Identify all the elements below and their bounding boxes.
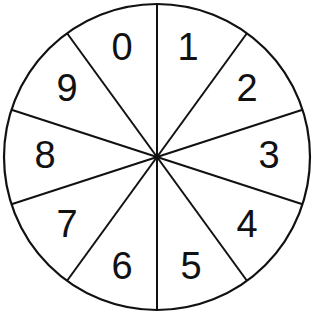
sector-label-1: 1 [177,26,198,68]
sector-label-4: 4 [236,203,257,245]
sector-label-8: 8 [34,134,55,176]
sector-label-5: 5 [180,245,201,287]
sector-label-7: 7 [56,203,77,245]
sector-label-6: 6 [111,245,132,287]
sector-label-0: 0 [111,26,132,68]
sector-label-3: 3 [258,134,279,176]
spinner-diagram: 0123456789 [0,0,314,328]
sector-label-9: 9 [56,67,77,109]
sector-label-2: 2 [236,67,257,109]
